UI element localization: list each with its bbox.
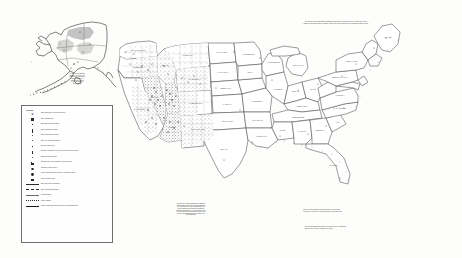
svg-text:ARKANSAS: ARKANSAS xyxy=(251,119,263,121)
flag-icon xyxy=(25,161,40,165)
dashed-line-icon xyxy=(25,189,40,191)
legend-item-label: Major Highway xyxy=(40,200,51,202)
legend-item: National Interagency Fire Center and Int… xyxy=(25,150,110,155)
svg-text:OHIO: OHIO xyxy=(310,88,316,90)
legend-item: BLM District Office Location xyxy=(25,123,110,128)
svg-text:ALABAMA: ALABAMA xyxy=(297,130,308,132)
legend-item-label: BLM Headquarters xyxy=(40,118,53,120)
open-square-icon xyxy=(25,178,40,181)
svg-text:ILLINOIS: ILLINOIS xyxy=(274,88,283,90)
legend-item: BLM Field Station Location xyxy=(25,134,110,139)
svg-text:OKLAHOMA: OKLAHOMA xyxy=(222,120,235,122)
tiny-square-icon xyxy=(25,145,40,147)
heavy-line-icon xyxy=(25,205,40,207)
star-icon: ★ xyxy=(25,112,40,116)
note-line: California Desert. xyxy=(143,214,239,216)
legend-item: BLM Fire and Training Center xyxy=(25,140,110,145)
legend-item-label: BLM Fire and Training Center xyxy=(40,140,60,142)
solid-line-icon xyxy=(25,183,40,184)
florida-note-block: Today, the BLM administers 245 million s… xyxy=(303,209,419,212)
svg-text:CALIFORNIA: CALIFORNIA xyxy=(134,108,147,110)
alaska-note-block: ALASKA STATE OFFICE 222 W. 7th Avenue #1… xyxy=(46,73,108,84)
legend-item-label: State Boundary xyxy=(40,194,51,196)
svg-text:OREGON: OREGON xyxy=(133,66,143,68)
legend-item-label: BLM State Office Jurisdiction xyxy=(40,183,60,185)
legend-item-label: National Interagency Fire Center and Int… xyxy=(40,150,78,152)
svg-text:TENNESSEE: TENNESSEE xyxy=(292,116,305,118)
svg-text:NEW YORK: NEW YORK xyxy=(346,60,358,62)
legend-item: ★ BLM State Office (with State Director) xyxy=(25,112,110,117)
legend-item: BLM Field Office Boundary xyxy=(25,189,110,194)
top-note-block: The Bureau of Land Management administer… xyxy=(268,21,404,24)
legend-item-label: Lands Administered by the Bureau of Land… xyxy=(40,205,78,207)
svg-text:S.C.: S.C. xyxy=(336,121,341,123)
thin-line-icon xyxy=(25,194,40,195)
svg-text:NEW MEXICO: NEW MEXICO xyxy=(191,128,205,130)
note-line: of which are located in the 12 Western S… xyxy=(303,211,419,213)
svg-text:WASHINGTON: WASHINGTON xyxy=(131,49,146,51)
svg-text:S. DAKOTA: S. DAKOTA xyxy=(217,71,229,73)
legend-title: LEGEND xyxy=(26,109,110,111)
open-circle-icon xyxy=(25,167,40,170)
svg-text:IDAHO: IDAHO xyxy=(162,64,169,66)
bottom-center-note-block: The Bureau of Land Management administer… xyxy=(143,203,239,216)
legend-item-label: Public Lands Information Center / Intera… xyxy=(40,172,75,174)
legend-item-label: BLM State Office (with State Director) xyxy=(40,112,66,114)
legend-item: Lands Administered by the Bureau of Land… xyxy=(25,205,110,210)
dotted-line-icon xyxy=(25,200,40,202)
svg-text:LOUISIANA: LOUISIANA xyxy=(256,135,268,137)
svg-text:WISCONSIN: WISCONSIN xyxy=(268,61,281,63)
legend-item: BLM State Office Jurisdiction xyxy=(25,183,110,188)
svg-text:°: ° xyxy=(31,61,33,65)
legend-item: BLM Site and Center xyxy=(25,145,110,150)
legend-item-label: BLM Field Office Boundary xyxy=(40,189,59,191)
svg-text:COLORADO: COLORADO xyxy=(190,102,202,104)
dot-icon xyxy=(25,156,40,158)
legend-item: Major Highway xyxy=(25,200,110,205)
bar-icon xyxy=(25,129,40,133)
legend-item-label: National Wild Horse and Burro Adoption C… xyxy=(40,161,72,163)
legend-item: BLM Headquarters xyxy=(25,118,110,123)
note-line: mineral estate located throughout the co… xyxy=(305,228,415,230)
legend-item: BLM Field Office Location xyxy=(25,129,110,134)
svg-text:VIRGINIA: VIRGINIA xyxy=(335,94,345,96)
svg-text:MICHIGAN: MICHIGAN xyxy=(293,64,304,66)
map-page: ° ALASKA STATE OFFICE 222 W. 7th Avenue … xyxy=(0,0,462,258)
svg-text:MAINE: MAINE xyxy=(385,36,392,38)
small-square-icon xyxy=(25,123,40,125)
svg-text:MONTANA: MONTANA xyxy=(183,54,194,56)
legend-item-label: BLM Site and Center xyxy=(40,145,55,147)
svg-text:UTAH: UTAH xyxy=(169,98,175,100)
small-dot-icon xyxy=(25,140,40,142)
legend-item: State Boundary xyxy=(25,194,110,199)
legend-item: National Wild Horse and Burro Adoption C… xyxy=(25,161,110,166)
svg-text:KENTUCKY: KENTUCKY xyxy=(296,105,308,107)
lower-right-note-block: The agency manages an additional 700 mil… xyxy=(305,226,415,229)
svg-text:KANSAS: KANSAS xyxy=(223,103,232,105)
svg-text:PENNSYLVANIA: PENNSYLVANIA xyxy=(332,76,348,78)
legend-item: Other Federal Facility xyxy=(25,178,110,183)
svg-text:MISS.: MISS. xyxy=(280,129,286,131)
alaska-note-line: United States xyxy=(46,83,108,85)
svg-text:IOWA: IOWA xyxy=(247,71,253,73)
legend-item-label: BLM Field Station Location xyxy=(40,134,59,136)
svg-text:NEVADA: NEVADA xyxy=(151,96,160,98)
legend-item-label: BLM Field Office Location xyxy=(40,129,58,131)
svg-text:INDIANA: INDIANA xyxy=(292,90,301,92)
svg-text:FLORIDA: FLORIDA xyxy=(329,164,339,166)
svg-text:TEXAS: TEXAS xyxy=(221,148,229,150)
svg-text:ARIZONA: ARIZONA xyxy=(167,126,177,128)
legend-item: National Heritage Center xyxy=(25,167,110,172)
svg-text:WYOMING: WYOMING xyxy=(189,78,200,80)
svg-text:N. CAROLINA: N. CAROLINA xyxy=(333,107,347,109)
legend-item: National Training Center xyxy=(25,156,110,161)
svg-text:MINNESOTA: MINNESOTA xyxy=(243,53,256,55)
tall-bar-icon xyxy=(25,150,40,154)
svg-text:NEBRASKA: NEBRASKA xyxy=(220,87,232,89)
dot-icon xyxy=(25,134,40,136)
legend-panel: LEGEND ★ BLM State Office (with State Di… xyxy=(21,105,113,243)
legend-item-label: National Heritage Center xyxy=(40,167,57,169)
legend-item-label: BLM District Office Location xyxy=(40,123,59,125)
svg-text:GEORGIA: GEORGIA xyxy=(315,129,325,131)
filled-circle-icon xyxy=(25,172,40,175)
